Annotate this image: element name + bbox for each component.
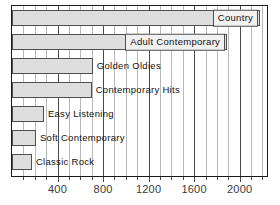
tick-minor — [23, 177, 24, 180]
bar[interactable] — [12, 130, 36, 146]
tick-minor — [183, 177, 184, 180]
bar[interactable] — [12, 58, 93, 74]
tick-minor — [160, 177, 161, 180]
tick-minor — [114, 177, 115, 180]
bar[interactable] — [12, 82, 92, 98]
tick-major — [240, 177, 241, 182]
axis-tick-label: 1200 — [136, 183, 161, 195]
tick-minor — [126, 177, 127, 180]
bar-label: Golden Oldies — [93, 61, 161, 71]
bar-label: Soft Contemporary — [36, 133, 125, 143]
tick-minor — [251, 177, 252, 180]
tick-minor — [69, 177, 70, 180]
bar-row: Soft Contemporary — [12, 130, 267, 146]
axis-tick-label: 1600 — [181, 183, 206, 195]
bar-row: Classic Rock — [12, 154, 267, 170]
tick-major — [58, 177, 59, 182]
bar-row: Adult Contemporary — [12, 34, 267, 50]
tick-minor — [92, 177, 93, 180]
bar[interactable] — [12, 106, 44, 122]
x-axis-tick-labels: 400800120016002000 — [11, 183, 268, 199]
horizontal-bar-chart: CountryAdult ContemporaryGolden OldiesCo… — [0, 0, 280, 205]
axis-tick-label: 400 — [48, 183, 67, 195]
bar-label: Classic Rock — [32, 157, 95, 167]
axis-tick-label: 2000 — [227, 183, 252, 195]
bar-row: Contemporary Hits — [12, 82, 267, 98]
bar[interactable] — [12, 154, 32, 170]
tick-major — [194, 177, 195, 182]
tick-minor — [137, 177, 138, 180]
plot-area: CountryAdult ContemporaryGolden OldiesCo… — [11, 5, 268, 177]
axis-tick-label: 800 — [94, 183, 113, 195]
bar-label: Adult Contemporary — [125, 34, 225, 51]
bar-label: Country — [213, 10, 258, 27]
tick-minor — [80, 177, 81, 180]
bar-label: Contemporary Hits — [92, 85, 180, 95]
x-axis-ticks — [11, 177, 268, 182]
tick-minor — [46, 177, 47, 180]
tick-major — [149, 177, 150, 182]
tick-minor — [262, 177, 263, 180]
bar-row: Country — [12, 10, 267, 26]
tick-major — [103, 177, 104, 182]
bar-row: Golden Oldies — [12, 58, 267, 74]
tick-minor — [171, 177, 172, 180]
tick-minor — [206, 177, 207, 180]
bar-label: Easy Listening — [44, 109, 114, 119]
tick-minor — [228, 177, 229, 180]
tick-minor — [217, 177, 218, 180]
tick-minor — [35, 177, 36, 180]
bar-row: Easy Listening — [12, 106, 267, 122]
